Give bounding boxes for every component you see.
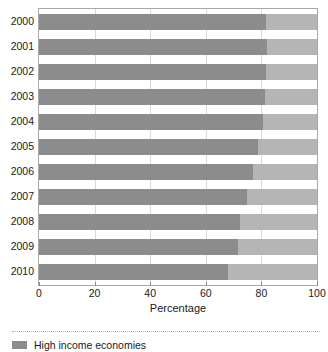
bar-segment-high-income xyxy=(39,239,238,255)
bar-row xyxy=(39,89,317,105)
bar-row xyxy=(39,189,317,205)
bar-segment-remainder xyxy=(240,214,317,230)
bar-segment-remainder xyxy=(265,89,317,105)
bar-row xyxy=(39,39,317,55)
bar-segment-remainder xyxy=(228,264,317,280)
bar-segment-high-income xyxy=(39,14,266,30)
legend-label-high-income: High income economies xyxy=(34,339,146,351)
legend-swatch-high-income xyxy=(12,341,27,349)
y-axis-label: 2000 xyxy=(0,13,34,29)
y-axis-label: 2009 xyxy=(0,238,34,254)
y-axis-labels: 2000200120022003200420052006200720082009… xyxy=(0,8,34,284)
bar-segment-remainder xyxy=(263,114,317,130)
y-axis-label: 2007 xyxy=(0,188,34,204)
bar-row xyxy=(39,214,317,230)
x-axis-ticks: 020406080100 xyxy=(38,286,318,302)
bar-segment-remainder xyxy=(258,139,317,155)
plot-area xyxy=(38,8,318,286)
bar-segment-high-income xyxy=(39,189,247,205)
x-tick-label: 80 xyxy=(256,286,268,300)
bar-segment-remainder xyxy=(238,239,317,255)
bar-segment-high-income xyxy=(39,39,267,55)
bar-segment-remainder xyxy=(247,189,317,205)
y-axis-label: 2004 xyxy=(0,113,34,129)
bar-row xyxy=(39,164,317,180)
x-tick-label: 100 xyxy=(308,286,326,300)
bar-row xyxy=(39,239,317,255)
bar-segment-high-income xyxy=(39,214,240,230)
y-axis-label: 2005 xyxy=(0,138,34,154)
bar-segment-remainder xyxy=(253,164,317,180)
legend-divider xyxy=(12,331,320,332)
x-tick-label: 40 xyxy=(144,286,156,300)
bar-segment-high-income xyxy=(39,139,258,155)
y-axis-label: 2010 xyxy=(0,263,34,279)
bar-segment-high-income xyxy=(39,164,253,180)
bar-segment-high-income xyxy=(39,264,228,280)
bar-row xyxy=(39,14,317,30)
chart-legend: High income economies xyxy=(12,339,146,351)
bar-segment-high-income xyxy=(39,64,266,80)
y-axis-label: 2008 xyxy=(0,213,34,229)
bar-row xyxy=(39,139,317,155)
bar-row xyxy=(39,64,317,80)
bar-segment-remainder xyxy=(267,39,317,55)
bar-row xyxy=(39,264,317,280)
x-axis-title: Percentage xyxy=(38,302,318,314)
bar-row xyxy=(39,114,317,130)
bar-chart: 2000200120022003200420052006200720082009… xyxy=(0,0,328,352)
bar-segment-high-income xyxy=(39,89,265,105)
y-axis-label: 2002 xyxy=(0,63,34,79)
y-axis-label: 2001 xyxy=(0,38,34,54)
y-axis-label: 2003 xyxy=(0,88,34,104)
x-tick-label: 0 xyxy=(36,286,42,300)
x-tick-label: 60 xyxy=(200,286,212,300)
bar-segment-remainder xyxy=(266,14,317,30)
x-tick-label: 20 xyxy=(89,286,101,300)
bars-layer xyxy=(39,9,317,285)
bar-segment-high-income xyxy=(39,114,263,130)
bar-segment-remainder xyxy=(266,64,317,80)
y-axis-label: 2006 xyxy=(0,163,34,179)
